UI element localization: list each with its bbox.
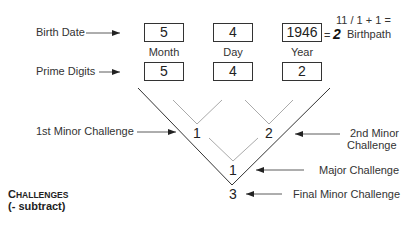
first-minor-challenge-label: 1st Minor Challenge xyxy=(36,125,134,137)
second-minor-challenge-label-line1: 2nd Minor xyxy=(350,127,399,139)
birth-date-label: Birth Date xyxy=(36,26,85,38)
final-minor-challenge-label: Final Minor Challenge xyxy=(293,188,400,200)
prime-day-box: 4 xyxy=(213,62,253,81)
birth-day-box: 4 xyxy=(213,23,253,42)
second-minor-challenge-value: 2 xyxy=(265,125,273,141)
challenges-title-rest: HALLENGES xyxy=(16,190,68,200)
birth-year-box: 1946 xyxy=(282,23,322,42)
prime-year-box: 2 xyxy=(282,62,322,81)
prime-month-box: 5 xyxy=(144,62,184,81)
final-minor-challenge-value: 3 xyxy=(229,186,237,202)
prime-digits-label: Prime Digits xyxy=(36,65,95,77)
birth-month-box: 5 xyxy=(144,23,184,42)
birthpath-equation: 11 / 1 + 1 = xyxy=(336,14,391,26)
challenges-title-initial: C xyxy=(8,188,16,200)
major-challenge-label: Major Challenge xyxy=(319,164,399,176)
birthpath-label: Birthpath xyxy=(347,28,391,40)
birthpath-equals: = xyxy=(324,29,330,41)
birthpath-value: 2 xyxy=(333,26,341,42)
challenges-legend-title: CHALLENGES xyxy=(8,188,68,200)
second-minor-challenge-label-line2: Challenge xyxy=(347,139,397,151)
month-heading: Month xyxy=(144,46,184,58)
major-challenge-value: 1 xyxy=(229,162,237,178)
year-heading: Year xyxy=(282,46,322,58)
challenges-legend-subtitle: (- subtract) xyxy=(8,200,65,212)
day-heading: Day xyxy=(213,46,253,58)
first-minor-challenge-value: 1 xyxy=(193,125,201,141)
